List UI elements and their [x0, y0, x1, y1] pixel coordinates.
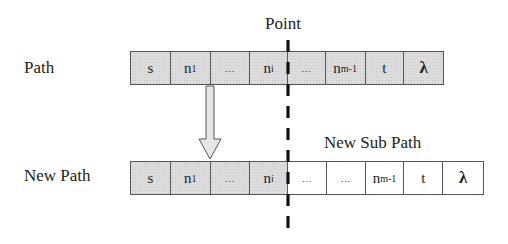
- diagram-overlay: [0, 0, 508, 244]
- down-arrow-icon: [199, 86, 221, 159]
